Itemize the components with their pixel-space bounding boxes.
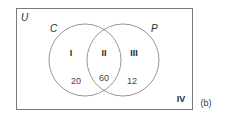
set-p-circle [87,24,159,96]
universe-label: U [21,12,29,23]
universe-rectangle [17,9,193,110]
region-i-value: 20 [71,76,81,86]
region-iv-label: IV [177,94,186,104]
set-p-label: P [151,23,158,34]
region-i-label: I [70,48,73,58]
region-ii-value: 60 [99,73,109,83]
figure-caption: (b) [201,98,212,108]
region-iii-value: 12 [127,76,137,86]
region-iii-label: III [130,48,138,58]
set-c-circle [49,24,121,96]
region-ii-label: II [101,48,106,58]
venn-diagram: U C P I II III IV 20 60 12 (b) [0,0,226,114]
set-c-label: C [50,23,58,34]
